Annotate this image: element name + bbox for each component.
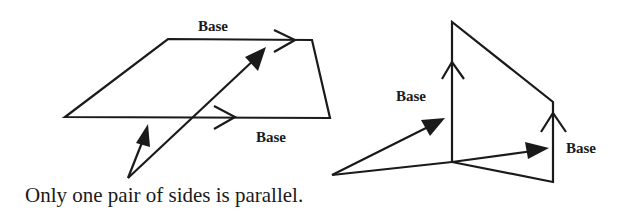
arrowhead-right-base-icon xyxy=(525,142,549,159)
right-pointer-arrows xyxy=(332,118,549,175)
arrowhead-left-base-icon xyxy=(421,118,445,136)
left-bottom-base-label: Base xyxy=(256,129,286,145)
parallel-chevron-top-icon xyxy=(274,30,295,52)
right-trapezoid-outline xyxy=(452,22,553,182)
caption: Only one pair of sides is parallel. xyxy=(25,183,303,208)
left-trapezoid-outline xyxy=(65,39,330,118)
left-top-base-label: Base xyxy=(198,18,228,34)
arrowhead-top-base-icon xyxy=(245,47,266,71)
arrow-to-right-base-icon xyxy=(452,151,533,162)
left-pointer-arrows xyxy=(128,47,266,178)
arrow-baseline-icon xyxy=(332,162,452,175)
arrowhead-bottom-base-icon xyxy=(136,124,150,147)
right-trapezoid xyxy=(442,22,566,182)
arrow-to-left-base-icon xyxy=(332,126,430,175)
right-right-base-label: Base xyxy=(566,140,596,156)
right-left-base-label: Base xyxy=(396,88,426,104)
